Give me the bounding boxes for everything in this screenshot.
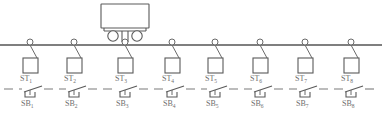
switch-blade [299,86,317,92]
switch-label-4: SB4 [163,99,176,109]
station-box[interactable] [298,58,313,73]
switch-8[interactable] [345,86,363,97]
station-1[interactable] [23,39,38,73]
hook-icon [169,39,175,45]
station-label-4: ST4 [162,74,174,84]
trolley-body [101,4,149,28]
station-box[interactable] [118,58,133,73]
hook-icon [71,39,77,45]
station-6[interactable] [253,39,268,73]
switch-blade [345,86,363,92]
hook-icon [257,39,263,45]
trolley-wheel-right [132,31,142,41]
switch-2[interactable] [68,86,86,97]
station-2[interactable] [67,39,82,73]
switch-blade [68,86,86,92]
hook-icon [212,39,218,45]
rope-line [172,45,179,58]
diagram-canvas: ST1 ST2 ST3 ST4 ST5 ST6 ST7 ST8 [0,0,382,122]
switch-label-6: SB6 [251,99,264,109]
station-label-2: ST2 [64,74,76,84]
switch-label-3: SB3 [116,99,129,109]
switch-blade [119,86,137,92]
switch-7[interactable] [299,86,317,97]
switch-blade [166,86,184,92]
switch-label-8: SB8 [342,99,355,109]
rope-line [260,45,267,58]
switch-5[interactable] [209,86,227,97]
monorail-diagram: ST1 ST2 ST3 ST4 ST5 ST6 ST7 ST8 [0,0,382,122]
trolley-wheel-left [108,31,118,41]
rope-line [74,45,81,58]
hook-icon [122,39,128,45]
hook-icon [27,39,33,45]
switch-3[interactable] [119,86,137,97]
station-labels: ST1 ST2 ST3 ST4 ST5 ST6 ST7 ST8 [20,74,353,84]
rope-line [30,45,37,58]
switch-blade [254,86,272,92]
station-group [23,39,359,73]
station-box[interactable] [344,58,359,73]
switch-blade [24,86,42,92]
station-3[interactable] [118,39,133,73]
station-8[interactable] [344,39,359,73]
switch-labels: SB1 SB2 SB3 SB4 SB5 SB6 SB7 SB8 [21,99,355,109]
hook-icon [302,39,308,45]
station-7[interactable] [298,39,313,73]
station-box[interactable] [253,58,268,73]
station-label-7: ST7 [295,74,307,84]
rope-line [351,45,358,58]
switch-label-1: SB1 [21,99,34,109]
station-box[interactable] [67,58,82,73]
switch-6[interactable] [254,86,272,97]
station-box[interactable] [165,58,180,73]
station-4[interactable] [165,39,180,73]
switch-1[interactable] [24,86,42,97]
switch-label-5: SB5 [206,99,219,109]
station-5[interactable] [208,39,223,73]
station-label-5: ST5 [205,74,217,84]
switch-4[interactable] [166,86,184,97]
station-label-3: ST3 [115,74,127,84]
switch-label-7: SB7 [296,99,309,109]
rope-line [305,45,312,58]
rope-line [215,45,222,58]
switch-label-2: SB2 [65,99,78,109]
station-label-1: ST1 [20,74,32,84]
station-label-6: ST6 [250,74,262,84]
station-box[interactable] [208,58,223,73]
switch-blade [209,86,227,92]
hook-icon [348,39,354,45]
rope-line [125,45,132,58]
trolley [101,4,149,42]
station-label-8: ST8 [341,74,353,84]
switch-group [24,86,363,97]
station-box[interactable] [23,58,38,73]
